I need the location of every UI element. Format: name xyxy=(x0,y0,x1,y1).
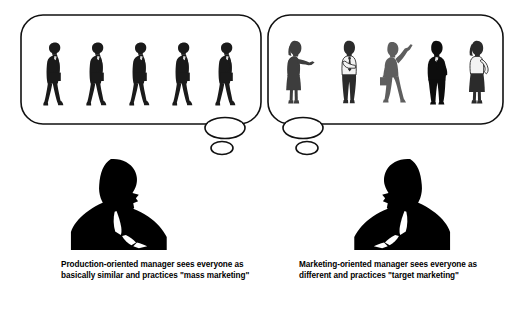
marketing-oriented-manager-silhouette xyxy=(354,159,450,250)
caption-marketing-oriented: Marketing-oriented manager sees everyone… xyxy=(299,259,489,281)
thought-bubble-left-tail-small xyxy=(211,142,233,155)
thought-bubble-right-tail-small xyxy=(296,142,318,155)
illustration-root: Production-oriented manager sees everyon… xyxy=(0,0,521,312)
caption-production-oriented: Production-oriented manager sees everyon… xyxy=(61,259,251,281)
thought-bubble-left-tail-large xyxy=(205,118,245,139)
thought-bubble-right-tail-large xyxy=(283,118,323,139)
production-oriented-manager-silhouette xyxy=(71,159,167,250)
